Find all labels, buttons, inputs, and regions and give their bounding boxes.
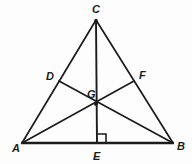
segment-CE	[96, 20, 97, 143]
point-label-a: A	[11, 142, 20, 154]
point-label-g: G	[87, 88, 96, 100]
point-label-c: C	[92, 3, 101, 15]
vertex-dot-c	[94, 19, 98, 23]
geometry-canvas: C D F G A B E	[0, 0, 192, 164]
point-label-e: E	[93, 150, 101, 162]
vertex-dot-g	[94, 102, 98, 106]
point-label-d: D	[46, 70, 54, 82]
geometry-figure: C D F G A B E	[0, 0, 192, 164]
point-label-b: B	[177, 140, 185, 152]
point-label-f: F	[139, 69, 146, 81]
right-angle-marker	[97, 134, 106, 143]
